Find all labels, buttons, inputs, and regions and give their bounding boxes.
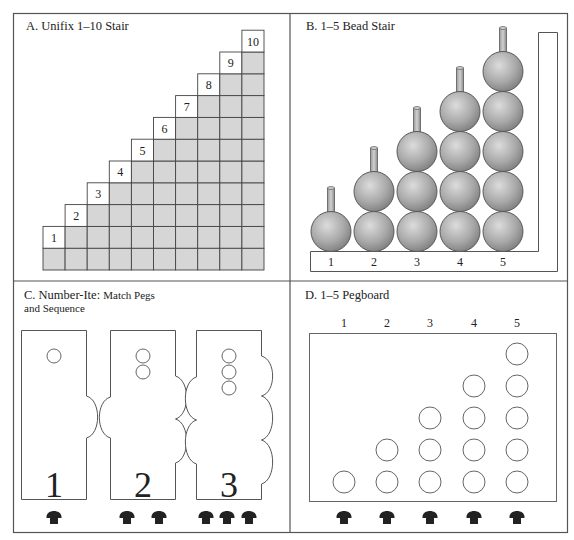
peg-group-1 [47,511,62,524]
card-numeral: 1 [45,465,63,505]
unifix-cube [154,139,176,161]
stair-label: 8 [206,78,212,92]
stair-label: 7 [184,100,190,114]
pegboard-hole [419,407,441,429]
bead-rod-cap [500,27,507,30]
peg-hole [47,349,61,363]
unifix-cube [131,205,153,227]
pegboard-hole [463,439,485,461]
unifix-cube [220,139,242,161]
unifix-cube [220,74,242,96]
peg-hole [222,381,236,395]
stair-label: 6 [162,122,168,136]
panel-c-title: C. Number-Ite: Match Pegs and Sequence [24,289,155,315]
unifix-cube [198,161,220,183]
unifix-column-7: 7 [176,96,198,270]
pegboard-hole [506,343,528,365]
bead [440,212,480,252]
pegboard-hole [463,375,485,397]
peg-shape [199,511,214,524]
unifix-cube [198,248,220,270]
unifix-cube [65,226,87,248]
unifix-cube [198,139,220,161]
unifix-cube [198,183,220,205]
pegboard-hole [506,375,528,397]
unifix-cube [131,161,153,183]
unifix-cube [220,226,242,248]
stair-label: 4 [117,165,123,179]
peg-icon [242,511,257,524]
pegboard-hole [506,407,528,429]
peg-icon [337,511,352,524]
bead-rod-cap [414,107,421,110]
pegboard-hole [463,471,485,493]
unifix-cube [242,52,264,74]
pegboard-hole [376,471,398,493]
bead-column-label: 5 [500,255,506,269]
peg-shape [47,511,62,524]
pegboard-hole [463,407,485,429]
math-manipulatives-figure: 12345678910 12345 123 12345 A. Unifix 1–… [0,0,574,540]
unifix-cube [242,161,264,183]
unifix-cube [242,117,264,139]
peg-icon [423,511,438,524]
bead [483,52,523,92]
card-numeral: 3 [220,465,238,505]
unifix-cube [198,117,220,139]
unifix-cube [131,183,153,205]
unifix-column-2: 2 [65,205,87,270]
peg-shape [423,511,438,524]
bead [483,172,523,212]
unifix-cube [176,226,198,248]
unifix-column-10: 10 [242,30,264,270]
panel-c-title-main: C. Number-Ite: [24,288,100,302]
bead-rod-cap [371,147,378,150]
bead-column-label: 2 [371,255,377,269]
unifix-cube [220,161,242,183]
unifix-column-1: 1 [43,226,65,270]
unifix-cube [176,161,198,183]
bead-column-4: 4 [440,67,480,270]
peg-hole [222,349,236,363]
unifix-column-4: 4 [109,161,131,270]
unifix-cube [220,183,242,205]
number-card-3: 3 [185,331,272,506]
unifix-cube [87,248,109,270]
peg-group-2 [120,511,167,524]
peg-shape [120,511,135,524]
unifix-cube [198,96,220,118]
bead-rod-cap [328,187,335,190]
unifix-cube [176,139,198,161]
unifix-cube [242,96,264,118]
peg-icon [510,511,525,524]
bead-column-3: 3 [397,107,437,270]
unifix-cube [154,226,176,248]
unifix-cube [176,183,198,205]
pegboard-hole [333,471,355,493]
bead [483,92,523,132]
unifix-cube [154,248,176,270]
bead-rod [371,148,378,174]
bead [354,212,394,252]
bead-rod [500,28,507,54]
unifix-cube [242,205,264,227]
panel-d-pegboard: 12345 [310,316,557,524]
unifix-cube [220,117,242,139]
unifix-cube [198,226,220,248]
bead [311,212,351,252]
peg-icon [380,511,395,524]
pegboard-column-label: 5 [514,316,520,330]
unifix-column-8: 8 [198,74,220,270]
peg-icon [467,511,482,524]
peg-shape [510,511,525,524]
panel-d-title: D. 1–5 Pegboard [305,289,389,302]
peg-shape [380,511,395,524]
unifix-cube [176,205,198,227]
unifix-cube [87,205,109,227]
bead [483,212,523,252]
number-card-1: 1 [22,331,98,506]
unifix-column-9: 9 [220,52,242,270]
unifix-cube [242,226,264,248]
peg-hole [136,349,150,363]
panel-a-unifix-stair: 12345678910 [43,30,264,270]
